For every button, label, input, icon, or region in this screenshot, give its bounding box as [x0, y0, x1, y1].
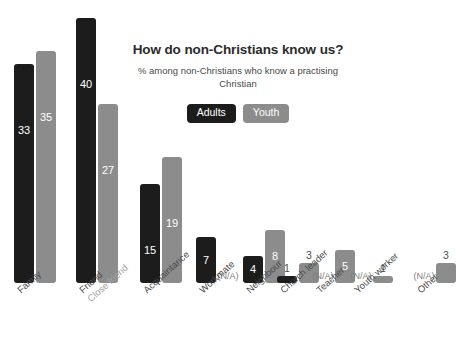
- bar-rect-family-adults[interactable]: [14, 64, 34, 283]
- value-label-acquaintance-youth: 19: [162, 218, 182, 229]
- chart-legend: Adults Youth: [118, 104, 358, 123]
- value-label-family-youth: 35: [36, 112, 56, 123]
- plot-area: 3335402715197(N/A)4813(N/A)5(N/A)1(N/A)3: [0, 0, 456, 283]
- bar-rect-family-youth[interactable]: [36, 51, 56, 283]
- bar-rect-acquaintance-adults[interactable]: [140, 184, 160, 283]
- value-label-workmate-adults: 7: [196, 255, 216, 266]
- legend-item-youth[interactable]: Youth: [243, 104, 289, 123]
- value-label-acquaintance-adults: 15: [140, 245, 160, 256]
- legend-item-adults[interactable]: Adults: [187, 104, 236, 123]
- bar-rect-friend-adults[interactable]: [76, 18, 96, 283]
- value-label-friend-adults: 40: [76, 79, 96, 90]
- chart-container: 3335402715197(N/A)4813(N/A)5(N/A)1(N/A)3…: [0, 0, 456, 357]
- value-label-friend-youth: 27: [98, 165, 118, 176]
- value-label-other-youth: 3: [436, 250, 456, 261]
- value-label-family-adults: 33: [14, 125, 34, 136]
